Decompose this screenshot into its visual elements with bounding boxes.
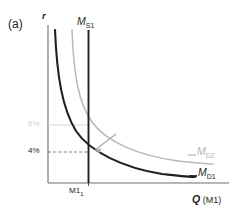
y-tick-6pct: 6% (28, 119, 40, 128)
curve-label-md2-base: M (197, 145, 206, 157)
demand-curve-md1 (55, 30, 195, 177)
x-axis-label-unit: (M1) (203, 195, 222, 205)
curve-label-md2: MD2 (197, 146, 215, 159)
x-axis-label-symbol: Q (192, 193, 200, 205)
x-tick-label-m1-sub: 1 (80, 191, 83, 197)
curve-label-ms1-sub: S1 (86, 22, 95, 29)
money-market-chart (0, 0, 238, 215)
curve-label-md1-base: M (198, 166, 207, 178)
y-tick-4pct: 4% (28, 146, 40, 155)
demand-curve-md2 (72, 30, 213, 164)
curve-label-ms1: MS1 (77, 16, 94, 29)
figure-panel-a: (a) r Q (M1) MS1 MD1 MD2 6% 4% M11 (0, 0, 238, 215)
x-tick-label-m1: M11 (69, 186, 83, 197)
shift-arrow-icon (95, 134, 116, 154)
x-tick-label-m1-base: M1 (69, 186, 80, 195)
curve-label-ms1-base: M (77, 15, 86, 27)
y-axis-label: r (42, 11, 46, 21)
curve-label-md1: MD1 (198, 167, 216, 180)
panel-label: (a) (8, 18, 23, 30)
curve-label-md1-sub: D1 (207, 173, 216, 180)
x-axis-label: Q (M1) (192, 194, 221, 205)
curve-label-md2-sub: D2 (206, 152, 215, 159)
